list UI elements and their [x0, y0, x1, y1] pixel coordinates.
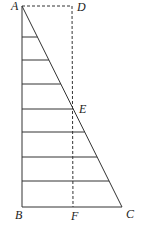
- label-C: C: [126, 207, 135, 221]
- label-B: B: [15, 208, 23, 222]
- label-F: F: [70, 209, 79, 223]
- geometry-diagram: A D E B F C: [0, 0, 144, 234]
- dashed-segment-DF: [72, 6, 73, 207]
- horizontal-strips: [22, 37, 109, 181]
- label-D: D: [76, 0, 86, 14]
- label-E: E: [78, 102, 87, 116]
- label-A: A: [10, 0, 19, 13]
